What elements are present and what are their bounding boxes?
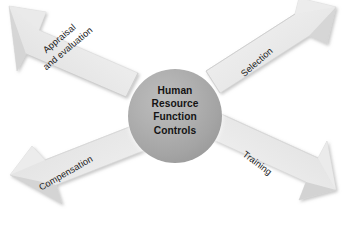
hub-label: Human Resource Function Controls	[141, 84, 209, 137]
hr-function-controls-diagram: Human Resource Function Controls Apprais…	[0, 0, 344, 229]
hub-line-4: Controls	[141, 124, 209, 137]
arrow-selection-body	[206, 0, 336, 93]
hub-line-2: Resource	[141, 97, 209, 110]
arrow-selection[interactable]	[206, 0, 336, 93]
hub-line-3: Function	[141, 110, 209, 123]
arrow-training[interactable]	[207, 113, 336, 200]
hub-line-1: Human	[141, 84, 209, 97]
